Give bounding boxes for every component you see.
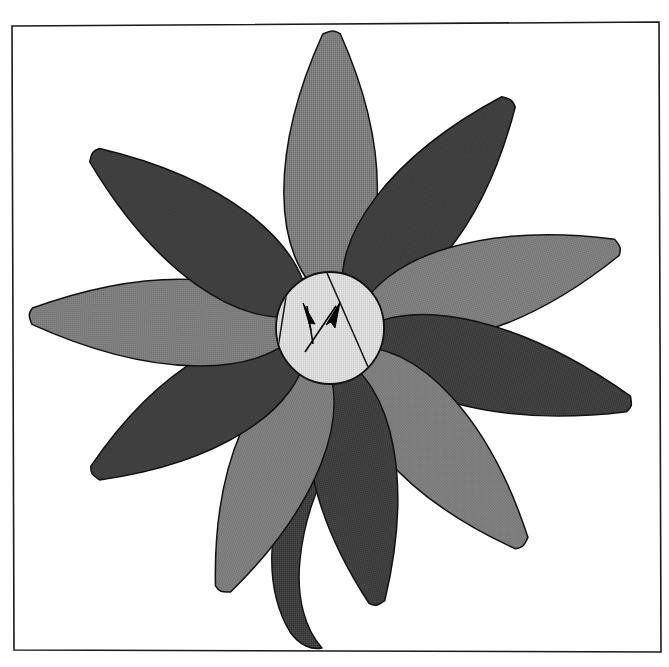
flower-center-group [276, 272, 384, 384]
figure-canvas: Stylised flower diagram with shaded peta… [0, 0, 669, 667]
flower-illustration [0, 0, 669, 667]
flower-center-disc [276, 272, 384, 384]
